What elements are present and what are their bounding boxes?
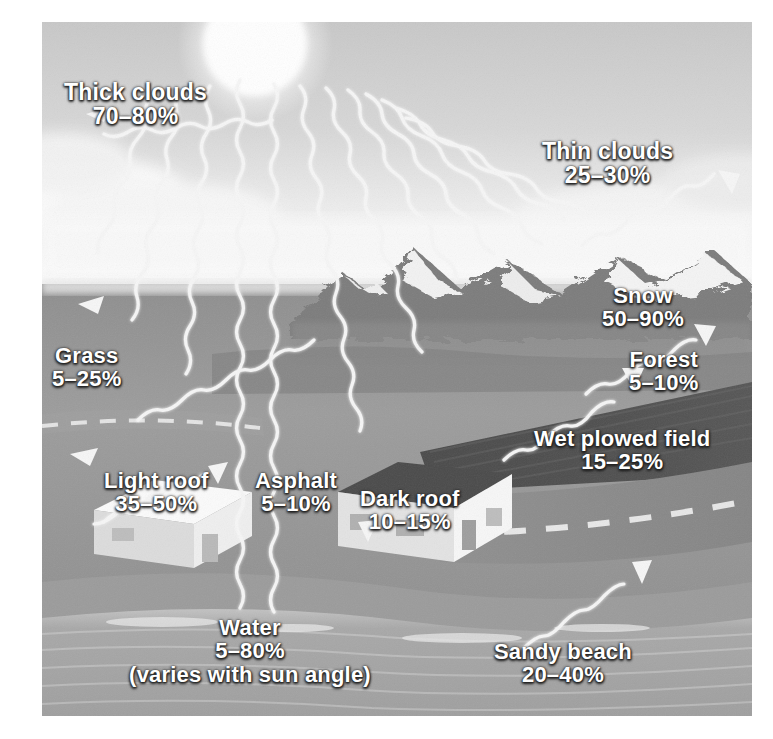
label-value: 5–10%	[629, 371, 699, 394]
label-value: 5–80%	[100, 639, 400, 662]
albedo-illustration: Thick clouds 70–80% Thin clouds 25–30% S…	[42, 22, 752, 716]
label-snow[interactable]: Snow 50–90%	[602, 284, 684, 331]
label-wet-plowed-field[interactable]: Wet plowed field 15–25%	[534, 427, 710, 474]
label-note: (varies with sun angle)	[100, 663, 400, 686]
label-light-roof[interactable]: Light roof 35–50%	[104, 469, 209, 516]
label-title: Light roof	[104, 469, 209, 492]
label-title: Snow	[602, 284, 684, 307]
label-title: Forest	[629, 348, 699, 371]
label-title: Grass	[52, 344, 122, 367]
label-title: Dark roof	[360, 487, 460, 510]
label-value: 70–80%	[64, 104, 207, 128]
label-water[interactable]: Water 5–80% (varies with sun angle)	[100, 616, 400, 686]
label-value: 15–25%	[534, 450, 710, 473]
label-thin-clouds[interactable]: Thin clouds 25–30%	[542, 139, 673, 188]
label-value: 25–30%	[542, 163, 673, 187]
figure-canvas: Thick clouds 70–80% Thin clouds 25–30% S…	[0, 0, 773, 739]
label-title: Wet plowed field	[534, 427, 710, 450]
label-title: Asphalt	[255, 469, 337, 492]
label-value: 10–15%	[360, 510, 460, 533]
label-grass[interactable]: Grass 5–25%	[52, 344, 122, 391]
label-dark-roof[interactable]: Dark roof 10–15%	[360, 487, 460, 534]
label-asphalt[interactable]: Asphalt 5–10%	[255, 469, 337, 516]
label-title: Thin clouds	[542, 139, 673, 163]
label-sandy-beach[interactable]: Sandy beach 20–40%	[494, 640, 632, 687]
label-title: Thick clouds	[64, 80, 207, 104]
label-value: 5–25%	[52, 367, 122, 390]
label-forest[interactable]: Forest 5–10%	[629, 348, 699, 395]
label-title: Sandy beach	[494, 640, 632, 663]
label-title: Water	[100, 616, 400, 639]
label-value: 35–50%	[104, 492, 209, 515]
label-value: 20–40%	[494, 663, 632, 686]
label-value: 50–90%	[602, 307, 684, 330]
label-thick-clouds[interactable]: Thick clouds 70–80%	[64, 80, 207, 129]
label-value: 5–10%	[255, 492, 337, 515]
